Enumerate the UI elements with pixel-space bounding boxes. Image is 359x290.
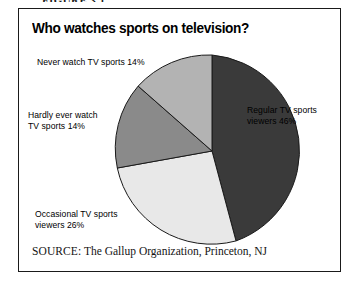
- pie-label-occasional: Occasional TV sports viewers 26%: [35, 209, 145, 230]
- pie-label-regular: Regular TV sports viewers 46%: [247, 105, 339, 126]
- source-text: The Gallup Organization, Princeton, NJ: [84, 245, 267, 257]
- figure-panel: Who watches sports on television? Never …: [18, 8, 341, 272]
- pie-label-hardly-ever: Hardly ever watch TV sports 14%: [28, 110, 128, 131]
- pie-chart-area: Never watch TV sports 14% Hardly ever wa…: [19, 9, 340, 271]
- pie-label-never: Never watch TV sports 14%: [37, 57, 187, 68]
- source-label: SOURCE:: [32, 245, 81, 257]
- source-line: SOURCE: The Gallup Organization, Princet…: [32, 245, 267, 257]
- figure-caption: FIGURE 3.1: [42, 0, 105, 2]
